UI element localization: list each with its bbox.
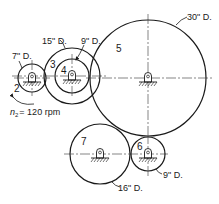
gear-5-label: 5 xyxy=(116,43,122,54)
gear-6: 6 9" D. xyxy=(131,134,183,180)
gear-4-label: 4 xyxy=(61,65,67,76)
gear-6-diameter: 9" D. xyxy=(163,170,183,180)
gear-7: 7 16" D. xyxy=(64,124,168,193)
gear-5-diameter: 30" D. xyxy=(187,12,212,22)
rotation-arrow-icon xyxy=(13,97,34,104)
gear-6-label: 6 xyxy=(137,141,143,152)
gear-2-label: 2 xyxy=(14,83,20,94)
gear-2-diameter: 7" D. xyxy=(12,51,32,61)
gear-3-label: 3 xyxy=(50,59,56,70)
gear-4-diameter: 9" D. xyxy=(81,36,101,46)
gear-5: 5 30" D. xyxy=(86,12,212,136)
input-speed-label: n2= 120 rpm xyxy=(10,107,60,118)
gear-3: 3 15" D. xyxy=(42,36,100,104)
gear-3-diameter: 15" D. xyxy=(42,36,67,46)
bearing-support-icon xyxy=(91,149,109,163)
gear-7-label: 7 xyxy=(81,136,87,147)
gear-7-diameter: 16" D. xyxy=(118,183,143,193)
gear-train-diagram: 5 30" D. 3 15" D. 4 9" D. 2 7" D. n2= 12… xyxy=(0,0,219,204)
